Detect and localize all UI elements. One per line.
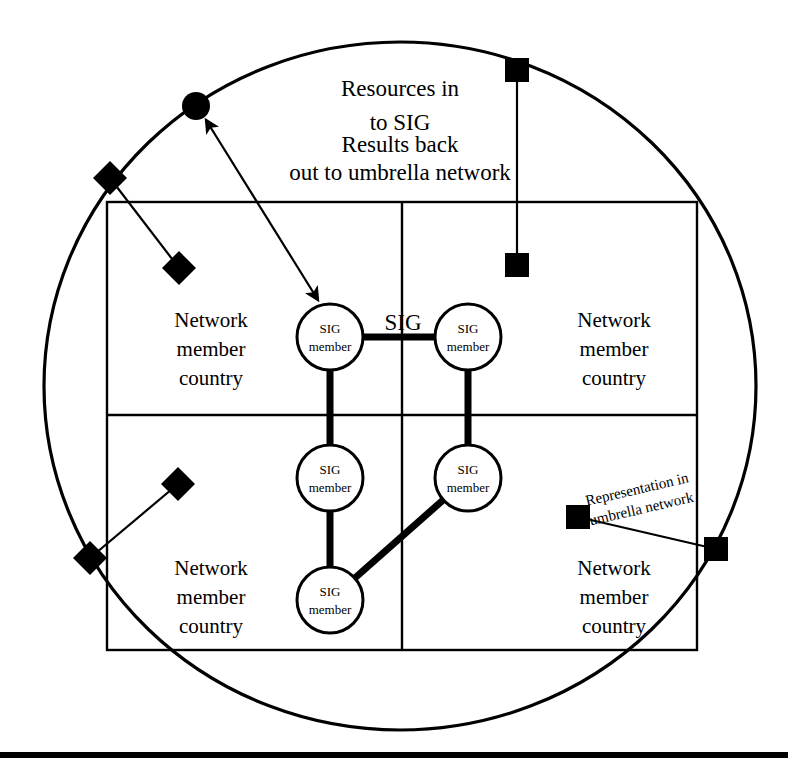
diagram-canvas: Network member country Network member co… — [0, 0, 788, 771]
quadrant-label-line1: Network — [577, 308, 651, 332]
representation-pair-bottom-right: Representation in umbrella network — [566, 469, 728, 561]
sig-member-circle[interactable] — [297, 304, 363, 370]
note-line-3: Results back — [342, 132, 459, 157]
sig-group-label: SIG — [384, 310, 421, 335]
sig-member-label-line1: SIG — [320, 584, 341, 599]
quadrant-label-line1: Network — [577, 556, 651, 580]
note-line-1: Resources in — [341, 76, 460, 101]
quadrant-label-top-left: Network member country — [174, 308, 248, 390]
network-umbrella-diagram: Network member country Network member co… — [0, 0, 788, 771]
sig-member-label-line1: SIG — [320, 321, 341, 336]
resources-flow-note: Resources in to SIG Results back out to … — [289, 76, 511, 185]
quadrant-label-top-right: Network member country — [577, 308, 651, 390]
representation-connector — [110, 178, 179, 268]
quadrant-label-bottom-left: Network member country — [174, 556, 248, 638]
country-node-square[interactable] — [505, 253, 529, 277]
quadrant-label-line3: country — [179, 614, 244, 638]
quadrant-label-line3: country — [179, 366, 244, 390]
quadrant-label-line1: Network — [174, 308, 248, 332]
sig-member-node-5[interactable]: SIG member — [297, 567, 363, 633]
umbrella-node-square[interactable] — [505, 58, 529, 82]
sig-member-label-line2: member — [309, 480, 352, 495]
umbrella-node-square[interactable] — [704, 537, 728, 561]
representation-pair-left-top — [93, 161, 196, 285]
member-country-grid — [107, 202, 697, 650]
sig-member-label-line2: member — [309, 602, 352, 617]
quadrant-label-line1: Network — [174, 556, 248, 580]
sig-member-label-line1: SIG — [320, 462, 341, 477]
sig-member-label-line1: SIG — [458, 462, 479, 477]
representation-connector — [90, 484, 178, 558]
sig-member-label-line2: member — [447, 339, 490, 354]
quadrant-label-line3: country — [582, 614, 647, 638]
umbrella-hub-dot[interactable] — [182, 92, 210, 120]
umbrella-node-diamond[interactable] — [73, 541, 107, 575]
sig-member-circle[interactable] — [297, 445, 363, 511]
sig-member-label-line2: member — [309, 339, 352, 354]
note-line-4: out to umbrella network — [289, 160, 511, 185]
sig-member-label-line2: member — [447, 480, 490, 495]
umbrella-node-diamond[interactable] — [93, 161, 127, 195]
resource-flow-arrow — [206, 120, 318, 300]
sig-member-node-4[interactable]: SIG member — [435, 445, 501, 511]
quadrant-label-line2: member — [177, 585, 246, 609]
sig-member-label-line1: SIG — [458, 321, 479, 336]
country-node-diamond[interactable] — [162, 251, 196, 285]
sig-member-node-2[interactable]: SIG member — [435, 304, 501, 370]
quadrant-label-line2: member — [580, 585, 649, 609]
quadrant-label-line2: member — [177, 337, 246, 361]
sig-member-circle[interactable] — [435, 304, 501, 370]
quadrant-label-line2: member — [580, 337, 649, 361]
sig-member-circle[interactable] — [435, 445, 501, 511]
sig-member-node-1[interactable]: SIG member — [297, 304, 363, 370]
quadrant-label-line3: country — [582, 366, 647, 390]
sig-member-node-3[interactable]: SIG member — [297, 445, 363, 511]
sig-member-circle[interactable] — [297, 567, 363, 633]
quadrant-label-bottom-right: Network member country — [577, 556, 651, 638]
representation-annotation: Representation in umbrella network — [583, 469, 695, 528]
country-node-diamond[interactable] — [161, 467, 195, 501]
